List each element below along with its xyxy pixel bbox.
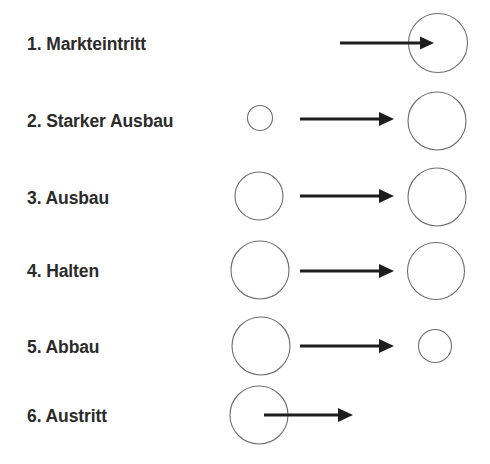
row-label-3: 3. Ausbau	[27, 188, 109, 208]
source-circle-2	[248, 106, 273, 131]
strategy-diagram: 1. Markteintritt 2. Starker Ausbau 3. Au…	[0, 0, 490, 464]
row-label-6: 6. Austritt	[27, 406, 107, 426]
source-circle-5	[232, 317, 290, 375]
row-label-5: 5. Abbau	[27, 337, 99, 357]
transition-arrow-head-6	[338, 408, 353, 422]
diagram-row-4: 4. Halten	[27, 241, 465, 300]
row-label-1: 1. Markteintritt	[27, 34, 146, 54]
diagram-row-1: 1. Markteintritt	[27, 14, 468, 73]
diagram-row-6: 6. Austritt	[27, 386, 353, 444]
target-circle-2	[408, 92, 466, 150]
transition-arrow-head-4	[379, 264, 394, 278]
source-circle-3	[235, 172, 283, 220]
target-circle-5	[419, 330, 452, 363]
row-label-4: 4. Halten	[27, 261, 99, 281]
diagram-row-3: 3. Ausbau	[27, 168, 466, 226]
source-circle-4	[231, 241, 289, 299]
row-label-2: 2. Starker Ausbau	[27, 111, 173, 131]
diagram-row-5: 5. Abbau	[27, 317, 452, 375]
target-circle-4	[408, 243, 465, 300]
transition-arrow-head-3	[379, 189, 394, 203]
target-circle-3	[408, 168, 466, 226]
diagram-row-2: 2. Starker Ausbau	[27, 92, 466, 150]
diagram-canvas: 1. Markteintritt 2. Starker Ausbau 3. Au…	[0, 0, 490, 464]
transition-arrow-head-2	[379, 112, 394, 126]
transition-arrow-head-5	[379, 339, 394, 353]
